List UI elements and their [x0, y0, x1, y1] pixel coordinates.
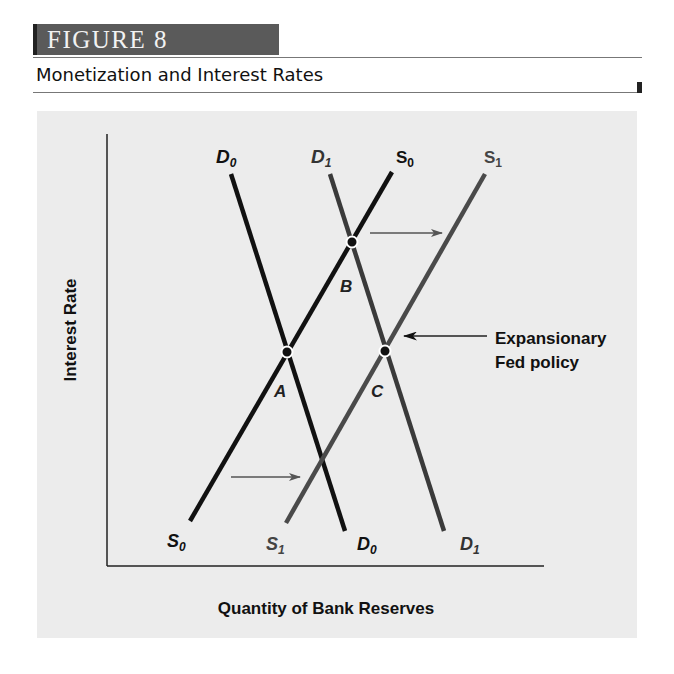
label-s0-top: S0	[396, 148, 414, 170]
point-label-b: B	[340, 277, 352, 296]
curve-s0	[190, 172, 392, 521]
annotation-line-2: Fed policy	[495, 353, 580, 372]
label-d1-bottom: D1	[460, 534, 480, 557]
supply-demand-diagram: D0 D1 S0 S1 S0 S1 D0 D1 B A C Expansiona…	[0, 0, 674, 674]
label-d0-top: D0	[216, 146, 237, 170]
label-d1-top: D1	[311, 146, 332, 170]
equilibrium-point-b	[347, 237, 358, 248]
label-d0-bottom: D0	[357, 534, 377, 557]
equilibrium-point-a	[282, 347, 293, 358]
point-label-a: A	[273, 382, 286, 401]
label-s0-bottom: S0	[167, 531, 186, 554]
annotation-line-1: Expansionary	[495, 329, 607, 348]
label-s1-bottom: S1	[266, 534, 285, 557]
x-axis-label: Quantity of Bank Reserves	[218, 599, 434, 618]
point-label-c: C	[371, 382, 384, 401]
label-s1-top: S1	[484, 148, 502, 170]
y-axis-label: Interest Rate	[61, 279, 80, 382]
equilibrium-point-c	[380, 346, 391, 357]
